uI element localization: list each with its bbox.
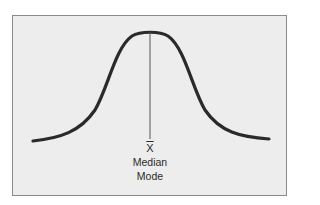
mode-label: Mode xyxy=(120,170,180,182)
normal-distribution-curve xyxy=(33,32,269,141)
median-label: Median xyxy=(120,156,180,168)
mean-symbol: X xyxy=(146,142,153,154)
mean-label: X xyxy=(120,142,180,154)
